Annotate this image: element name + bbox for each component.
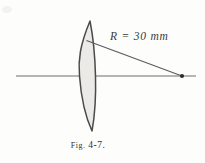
- lens-body: [79, 21, 96, 131]
- radius-label: R = 30 mm: [110, 30, 169, 42]
- figure-caption: Fig. 4-7.: [0, 140, 176, 150]
- figure-caption-prefix: Fig.: [71, 141, 86, 150]
- figure-caption-number: 4-7.: [85, 140, 105, 150]
- lens-diagram: [0, 0, 205, 163]
- radius-line: [87, 41, 183, 77]
- figure-container: R = 30 mm Fig. 4-7.: [0, 0, 205, 163]
- center-of-curvature-dot: [180, 74, 184, 78]
